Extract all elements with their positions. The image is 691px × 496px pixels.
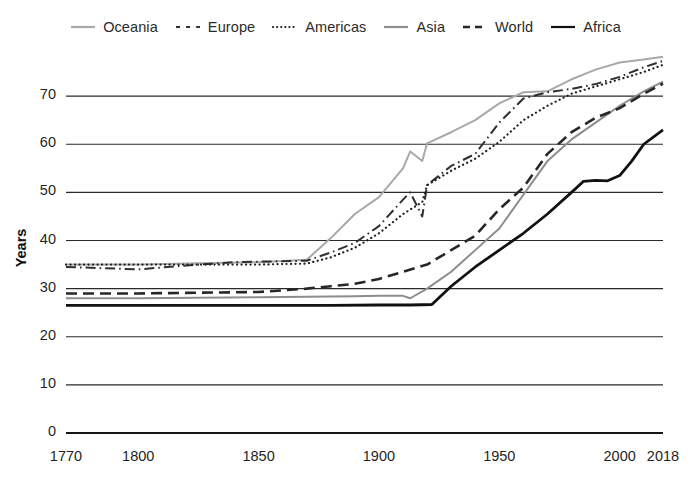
x-tick-label: 1850 [231, 448, 287, 464]
x-tick-label: 1800 [110, 448, 166, 464]
y-tick-label: 0 [22, 423, 56, 439]
x-tick-label: 1950 [471, 448, 527, 464]
series-line-europe [66, 61, 663, 269]
series-group [66, 57, 663, 306]
y-tick-label: 50 [22, 182, 56, 198]
series-line-americas [66, 65, 663, 265]
x-tick-label: 1770 [38, 448, 94, 464]
y-tick-label: 10 [22, 375, 56, 391]
series-line-africa [66, 130, 663, 306]
life-expectancy-line-chart: OceaniaEuropeAmericasAsiaWorldAfrica Yea… [0, 0, 691, 496]
x-tick-label: 2018 [635, 448, 691, 464]
y-tick-label: 40 [22, 231, 56, 247]
y-tick-label: 20 [22, 327, 56, 343]
chart-canvas [0, 0, 691, 496]
plot-area: 0102030405060701770180018501900195020002… [0, 0, 691, 496]
series-line-world [66, 84, 663, 294]
y-tick-label: 60 [22, 134, 56, 150]
x-tick-label: 1900 [351, 448, 407, 464]
y-tick-label: 30 [22, 279, 56, 295]
y-tick-label: 70 [22, 86, 56, 102]
